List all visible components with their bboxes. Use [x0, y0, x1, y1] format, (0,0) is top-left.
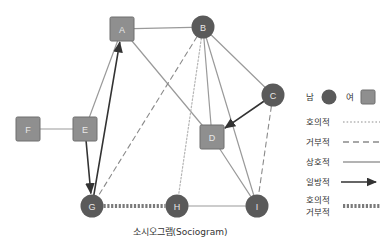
node-shape-square-female[interactable] — [73, 117, 97, 141]
edge-g-a — [94, 42, 120, 194]
node-shape-square-female[interactable] — [110, 17, 134, 41]
edge-a-d — [132, 41, 202, 125]
node-f[interactable]: F — [16, 117, 40, 141]
node-shape-circle-male[interactable] — [192, 16, 215, 39]
edge-d-i — [220, 149, 251, 196]
node-e[interactable]: E — [73, 117, 97, 141]
legend-mutual-label: 상호적 — [306, 157, 330, 167]
node-a[interactable]: A — [110, 17, 134, 41]
node-b[interactable]: B — [192, 16, 215, 39]
node-shape-circle-male[interactable] — [246, 195, 269, 218]
edge-c-d — [225, 102, 263, 128]
legend-favorable-label: 호의적 — [306, 117, 330, 127]
node-shape-square-female[interactable] — [200, 125, 224, 149]
edge-e-g — [86, 141, 91, 193]
node-shape-square-female[interactable] — [16, 117, 40, 141]
legend-oneway-label: 일방적 — [306, 177, 330, 187]
edge-b-i — [206, 38, 253, 195]
legend-favorable-rejecting-label-1: 호의적 — [306, 195, 330, 205]
node-i[interactable]: I — [246, 195, 269, 218]
node-g[interactable]: G — [81, 195, 104, 218]
edge-c-i — [259, 106, 272, 194]
legend-rejecting-label: 거부적 — [306, 137, 330, 147]
legend-female-label: 여 — [346, 92, 354, 102]
figure-caption: 소시오그램(Sociogram) — [133, 226, 228, 237]
node-d[interactable]: D — [200, 125, 224, 149]
node-h[interactable]: H — [166, 195, 189, 218]
legend-male-label: 남 — [306, 92, 314, 102]
edge-a-b — [134, 27, 192, 28]
legend-male-circle-icon — [322, 90, 337, 105]
node-c[interactable]: C — [262, 84, 285, 107]
node-shape-circle-male[interactable] — [166, 195, 189, 218]
legend-female-square-icon — [361, 90, 375, 104]
legend-favorable-rejecting-label-2: 거부적 — [306, 207, 330, 217]
sociogram-figure: ABCDEFGHI 남 여 호의적 거부적 상호적 일방적 호의적 거부적 소시… — [0, 0, 386, 249]
sociogram-canvas: ABCDEFGHI 남 여 호의적 거부적 상호적 일방적 호의적 거부적 소시… — [0, 0, 386, 249]
node-shape-circle-male[interactable] — [81, 195, 104, 218]
legend: 남 여 호의적 거부적 상호적 일방적 호의적 거부적 — [306, 90, 380, 218]
node-shape-circle-male[interactable] — [262, 84, 285, 107]
